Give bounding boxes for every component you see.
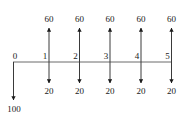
period-label-4: 4: [135, 51, 140, 61]
inflow-value-2: 60: [75, 14, 84, 24]
period-label-2: 2: [73, 51, 78, 61]
inflow-value-1: 60: [45, 14, 54, 24]
inflow-value-3: 60: [106, 14, 115, 24]
period-label-3: 3: [104, 51, 109, 61]
outflow-value-3: 20: [106, 86, 115, 96]
outflow-value-5: 20: [167, 86, 176, 96]
cash-flow-diagram: 0 1 2 3 4 5 60 60 60 60 60 20 20 20 20 2…: [0, 0, 190, 124]
outflow-value-4: 20: [137, 86, 146, 96]
outflow-value-1: 20: [45, 86, 54, 96]
period-label-1: 1: [43, 51, 48, 61]
period-label-5: 5: [165, 51, 170, 61]
inflow-value-5: 60: [167, 14, 176, 24]
outflow-value-2: 20: [75, 86, 84, 96]
inflow-value-4: 60: [137, 14, 146, 24]
diagram-canvas: [0, 0, 190, 124]
period-label-0: 0: [13, 51, 18, 61]
initial-outflow-value: 100: [7, 104, 21, 114]
